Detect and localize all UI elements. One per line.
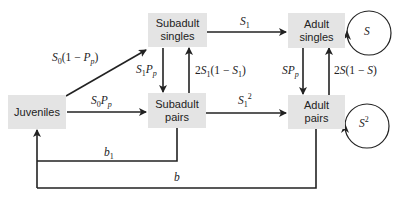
sub: 1 [110,152,114,161]
node-label-line2: pairs [165,111,189,124]
sup: 2 [248,92,252,101]
label-subadult-singles-to-adult-singles: S1 [240,15,250,27]
node-label-line2: singles [299,31,333,44]
node-subadult-pairs: Subadult pairs [148,93,206,128]
sym: P [101,94,108,106]
sub: p [153,69,157,78]
sub: p [295,70,299,79]
label-b-feedback: b [174,171,180,183]
label-adult-singles-self: S [364,25,370,37]
node-adult-pairs: Adult pairs [288,95,345,129]
label-adult-pairs-self: S2 [359,117,369,129]
node-juveniles: Juveniles [8,95,66,129]
sym: ) [242,64,246,76]
sym: SP [282,64,295,76]
node-label-line2: singles [160,30,194,43]
label-adult-singles-to-pairs: SPp [282,64,299,76]
label-adult-pairs-to-singles: 2S(1 − S) [334,64,377,76]
sym: ) [95,51,99,63]
sub: 1 [246,21,250,30]
sym: b [174,171,180,183]
label-subadult-singles-to-pairs: S1Pp [136,63,157,75]
label-subadult-pairs-to-adult-pairs: S12 [238,94,252,106]
label-subadult-pairs-to-singles: 2S1(1 − S1) [195,64,246,76]
sym: P [84,51,91,63]
sym: S [364,25,370,37]
node-label-line1: Adult [304,99,329,112]
sym: (1 − [346,64,368,76]
node-juveniles-label: Juveniles [14,106,60,119]
label-juv-to-subadult-pairs: S0Pp [91,94,112,106]
label-b1-feedback: b1 [104,146,114,158]
sym: (1 − [211,64,233,76]
node-subadult-singles: Subadult singles [148,13,207,47]
sup: 2 [365,115,369,124]
node-label-line1: Adult [304,18,329,31]
node-adult-singles: Adult singles [288,13,345,48]
sym: ) [373,64,377,76]
sym: (1 − [62,51,84,63]
node-label-line1: Subadult [156,17,199,30]
sub: 1 [244,100,248,109]
sub: p [108,100,112,109]
node-label-line2: pairs [305,112,329,125]
label-juv-to-subadult-singles: S0(1 − Pp) [52,51,98,63]
node-label-line1: Subadult [155,98,198,111]
sym: P [146,63,153,75]
